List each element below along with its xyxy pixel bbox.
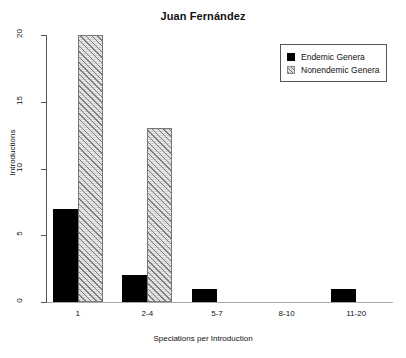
hatched-gray-square-icon [287,66,295,74]
y-axis-tick [41,102,46,103]
legend-item-nonendemic[interactable]: Nonendemic Genera [287,63,379,76]
y-axis-tick-label: 5 [0,229,38,238]
x-axis-tick-label: 5-7 [187,309,247,318]
x-axis-title: Speciations per Introduction [0,334,406,343]
bar-nonendemic-2-4 [147,128,172,302]
y-axis-tick-label: 15 [0,96,38,105]
x-axis-tick-label: 8-10 [257,309,317,318]
y-axis-tick [41,302,46,303]
y-axis-tick-label: 10 [0,163,38,172]
bar-endemic-2-4 [122,275,147,302]
legend-item-label: Endemic Genera [301,52,365,62]
legend-item-endemic[interactable]: Endemic Genera [287,50,379,63]
y-axis-tick [41,35,46,36]
y-axis-tick [41,169,46,170]
y-axis-title: Introductions [8,103,17,203]
x-axis-tick-label: 1 [48,309,108,318]
chart-title: Juan Fernández [0,10,406,22]
x-axis-tick-label: 11-20 [326,309,386,318]
bar-nonendemic-1 [78,35,103,302]
legend-item-label: Nonendemic Genera [301,65,379,75]
y-axis-tick-label: 20 [0,29,38,38]
x-axis-tick-label: 2-4 [117,309,177,318]
x-axis-line [47,302,393,303]
bar-endemic-11-20 [331,289,356,302]
bar-endemic-5-7 [192,289,217,302]
bar-endemic-1 [53,209,78,302]
chart-legend: Endemic Genera Nonendemic Genera [280,44,387,82]
y-axis-tick [41,235,46,236]
y-axis-tick-label: 0 [0,296,38,305]
solid-black-square-icon [287,53,295,61]
chart-container: Juan Fernández Introductions Speciations… [0,0,406,358]
